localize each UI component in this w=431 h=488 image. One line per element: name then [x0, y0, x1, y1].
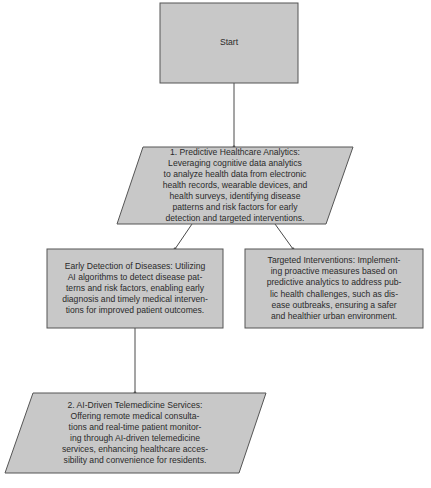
node-text-line: terns and risk factors, enabling early: [62, 283, 208, 294]
node-text-line: Offering remote medical consulta-: [62, 411, 208, 422]
node-text-line: ing through AI-driven telemedicine: [62, 433, 208, 444]
node-text-line: diagnosis and timely medical interven-: [62, 294, 208, 305]
early-detection-node: Early Detection of Diseases: Utilizing A…: [47, 249, 223, 328]
node-text-line: lic health challenges, such as dis-: [267, 289, 402, 300]
node-text-line: AI algorithms to detect disease pat-: [62, 272, 208, 283]
node-text-line: health surveys, identifying disease: [163, 191, 308, 202]
node-text-line: services, enhancing healthcare acces-: [62, 444, 208, 455]
node-text-line: detection and targeted interventions.: [163, 213, 308, 224]
targeted-interventions-node: Targeted Interventions: Implement- ing p…: [245, 249, 423, 328]
start-node: Start: [160, 3, 298, 83]
node-text-line: Leveraging cognitive data analytics: [163, 158, 308, 169]
node-text-line: Targeted Interventions: Implement-: [267, 255, 402, 266]
node-text-line: tions and real-time patient monitor-: [62, 422, 208, 433]
telemedicine-node: 2. AI-Driven Telemedicine Services: Offe…: [35, 393, 235, 473]
node-text-line: health records, wearable devices, and: [163, 180, 308, 191]
connector-analytics-to-interventions: [275, 224, 293, 249]
node-text-line: and healthier urban environment.: [267, 311, 402, 322]
node-text-line: tions for improved patient outcomes.: [62, 305, 208, 316]
node-text-line: patterns and risk factors for early: [163, 202, 308, 213]
connector-analytics-to-early-detection: [175, 224, 192, 249]
node-text-line: to analyze health data from electronic: [163, 169, 308, 180]
node-text-line: predictive analytics to address pub-: [267, 277, 402, 288]
node-text-line: ing proactive measures based on: [267, 266, 402, 277]
node-text-line: 1. Predictive Healthcare Analytics:: [163, 147, 308, 158]
node-text-line: sibility and convenience for residents.: [62, 455, 208, 466]
predictive-analytics-node: 1. Predictive Healthcare Analytics: Leve…: [135, 147, 335, 224]
node-text-line: 2. AI-Driven Telemedicine Services:: [62, 400, 208, 411]
node-text-line: Early Detection of Diseases: Utilizing: [62, 261, 208, 272]
start-label: Start: [220, 37, 238, 48]
node-text-line: ease outbreaks, ensuring a safer: [267, 300, 402, 311]
